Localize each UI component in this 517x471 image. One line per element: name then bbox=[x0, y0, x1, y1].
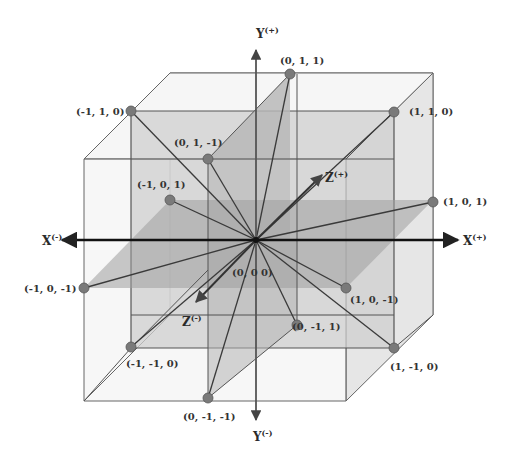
point-label: (0, 1, -1) bbox=[174, 137, 222, 149]
point-0-1-1 bbox=[285, 69, 295, 79]
point-1-0-1 bbox=[428, 197, 438, 207]
point-label: (1, 1, 0) bbox=[409, 106, 453, 118]
point-label: (-1, 0, 1) bbox=[137, 179, 185, 191]
point-label: (-1, 0, -1) bbox=[24, 283, 77, 295]
y-pos-label: Y(+) bbox=[255, 25, 279, 41]
point-1-1-0 bbox=[389, 107, 399, 117]
point-m1-m1-0 bbox=[126, 342, 136, 352]
cube-vector-diagram: X(+) X(-) Y(+) Y(-) Z(+) Z(-) (0, 1, 1) … bbox=[0, 0, 517, 471]
point-1-0-m1 bbox=[341, 283, 351, 293]
point-label: (1, 0, -1) bbox=[350, 294, 398, 306]
point-label: (0, -1, -1) bbox=[183, 411, 236, 423]
point-m1-0-m1 bbox=[79, 283, 89, 293]
origin-point bbox=[253, 237, 259, 243]
point-0-1-m1 bbox=[203, 154, 213, 164]
point-label: (0, 1, 1) bbox=[280, 55, 324, 67]
y-neg-label: Y(-) bbox=[252, 428, 273, 444]
point-1-m1-0 bbox=[389, 343, 399, 353]
point-label: (-1, 1, 0) bbox=[76, 106, 124, 118]
point-label: (1, -1, 0) bbox=[390, 361, 438, 373]
x-neg-label: X(-) bbox=[42, 232, 62, 248]
point-m1-1-0 bbox=[126, 106, 136, 116]
x-pos-label: X(+) bbox=[463, 232, 487, 248]
point-label: (-1, -1, 0) bbox=[126, 358, 179, 370]
origin-label: (0, 0 0) bbox=[232, 267, 273, 279]
point-m1-0-1 bbox=[165, 195, 175, 205]
point-label: (0, -1, 1) bbox=[292, 321, 340, 333]
point-label: (1, 0, 1) bbox=[443, 196, 487, 208]
point-0-m1-m1 bbox=[203, 393, 213, 403]
